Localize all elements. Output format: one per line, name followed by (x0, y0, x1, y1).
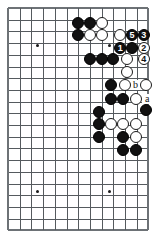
numbered-stone-5[interactable] (126, 29, 138, 41)
black-stone[interactable] (72, 29, 84, 41)
star-point-upper-left (36, 44, 39, 47)
star-point-lower-right (108, 190, 111, 193)
white-stone[interactable] (121, 53, 133, 65)
black-stone[interactable] (140, 104, 152, 116)
board-grid-line-vertical (147, 8, 149, 230)
white-stone[interactable] (130, 118, 142, 130)
black-stone[interactable] (84, 53, 96, 65)
board-grid-line-vertical (90, 8, 91, 230)
black-stone[interactable] (117, 144, 129, 156)
black-stone[interactable] (96, 53, 108, 65)
black-stone[interactable] (84, 17, 96, 29)
point-label-b[interactable]: b (131, 80, 141, 90)
board-grid-line-vertical (55, 8, 56, 230)
white-stone[interactable] (117, 118, 129, 130)
star-point-upper-right (108, 44, 111, 47)
go-board[interactable]: ba12345 (0, 0, 156, 240)
star-point-lower-left (36, 190, 39, 193)
black-stone[interactable] (93, 118, 105, 130)
white-stone[interactable] (105, 118, 117, 130)
black-stone[interactable] (93, 106, 105, 118)
white-stone[interactable] (130, 131, 142, 143)
board-grid-line-vertical (20, 8, 21, 230)
board-grid-line-vertical (7, 8, 9, 230)
black-stone[interactable] (126, 42, 138, 54)
numbered-stone-2[interactable] (138, 42, 150, 54)
black-stone[interactable] (117, 93, 129, 105)
white-stone[interactable] (130, 93, 142, 105)
black-stone[interactable] (107, 53, 119, 65)
black-stone[interactable] (105, 93, 117, 105)
white-stone[interactable] (96, 29, 108, 41)
black-stone[interactable] (130, 144, 142, 156)
black-stone[interactable] (72, 17, 84, 29)
board-grid-line-vertical (78, 8, 79, 230)
board-grid-line-vertical (31, 8, 32, 230)
black-stone[interactable] (93, 131, 105, 143)
go-board-diagram: ba12345 (0, 0, 156, 240)
point-label-a[interactable]: a (142, 94, 152, 104)
white-stone[interactable] (140, 79, 152, 91)
board-grid-line-vertical (43, 8, 44, 230)
white-stone[interactable] (96, 17, 108, 29)
numbered-stone-3[interactable] (138, 29, 150, 41)
black-stone[interactable] (117, 131, 129, 143)
white-stone[interactable] (121, 66, 133, 78)
numbered-stone-1[interactable] (114, 42, 126, 54)
board-grid-line-vertical (67, 8, 68, 230)
white-stone[interactable] (84, 29, 96, 41)
